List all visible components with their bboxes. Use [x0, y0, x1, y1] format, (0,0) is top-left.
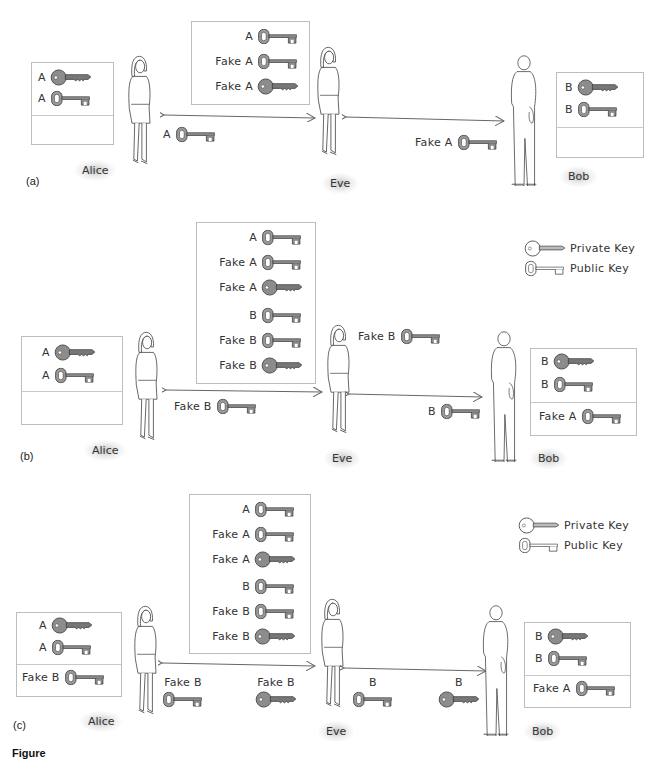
public-key-icon: [518, 537, 560, 554]
box-divider: [531, 402, 636, 403]
box-divider: [32, 115, 113, 116]
private-key-icon: [261, 279, 303, 296]
transfer-label: B: [352, 676, 394, 689]
alice-figure: [130, 320, 166, 455]
alice-keyring-box: A A Fake B: [16, 612, 122, 697]
public-key-icon: [51, 639, 93, 656]
key-owner-label: Fake A: [212, 528, 250, 541]
key-row: B: [541, 376, 595, 393]
legend-private: Private Key: [518, 515, 629, 535]
transfer-label: Fake B: [174, 400, 212, 413]
key-row: A: [249, 229, 303, 246]
eve-figure: [322, 318, 358, 443]
transfer-label: Fake B: [358, 330, 396, 343]
key-row: B: [249, 307, 303, 324]
key-owner-label: Fake A: [533, 682, 571, 695]
key-owner-label: A: [245, 30, 253, 43]
eve-keyring-box: A Fake A Fake A B Fake B Fake B: [196, 222, 316, 384]
key-row: A: [42, 367, 96, 384]
public-key-icon: [581, 408, 623, 425]
key-row: B: [242, 578, 296, 595]
key-owner-label: A: [38, 71, 46, 84]
key-owner-label: Fake B: [22, 671, 60, 684]
transfer-key: Fake B: [162, 676, 204, 708]
alice-eve-arrow: [162, 384, 327, 398]
key-row: A: [39, 639, 93, 656]
bob-keyring-box: B B Fake A: [530, 348, 637, 436]
transfer-label: B: [428, 405, 436, 418]
eve-name-label: Eve: [322, 173, 358, 194]
key-owner-label: A: [42, 369, 50, 382]
private-key-icon: [257, 78, 299, 95]
key-row: Fake B: [22, 669, 106, 686]
bob-figure: [476, 604, 516, 736]
bob-keyring-box: B B: [556, 72, 644, 158]
private-key-icon: [547, 628, 589, 645]
key-legend: Private Key Public Key: [518, 515, 629, 555]
public-key-icon: [457, 134, 499, 151]
key-owner-label: Fake A: [219, 281, 257, 294]
key-row: Fake A: [539, 408, 623, 425]
key-row: B: [535, 650, 589, 667]
public-key-icon: [261, 332, 303, 349]
key-row: B: [541, 353, 595, 370]
private-key-icon: [51, 617, 93, 634]
panel-tag: (c): [13, 719, 26, 731]
key-row: B: [565, 101, 619, 118]
public-key-icon: [175, 126, 217, 143]
transfer-label: Fake B: [162, 676, 204, 689]
public-key-icon: [575, 680, 617, 697]
public-key-icon: [261, 254, 303, 271]
public-key-icon: [254, 501, 296, 518]
key-owner-label: Fake B: [212, 605, 250, 618]
alice-eve-arrow: [158, 658, 320, 672]
key-row: Fake A: [219, 254, 303, 271]
legend-public: Public Key: [518, 535, 629, 555]
key-owner-label: B: [541, 355, 549, 368]
box-divider: [525, 675, 630, 676]
key-row: Fake B: [219, 357, 303, 374]
bob-keyring-box: B B Fake A: [524, 622, 631, 708]
private-key-icon: [255, 691, 297, 708]
key-owner-label: B: [249, 309, 257, 322]
public-key-icon: [577, 101, 619, 118]
eve-name-label: Eve: [324, 448, 360, 469]
bob-name-label: Bob: [560, 166, 597, 187]
private-key-icon: [54, 344, 96, 361]
key-owner-label: A: [249, 231, 257, 244]
legend-public: Public Key: [524, 258, 635, 278]
public-key-icon: [261, 307, 303, 324]
public-key-icon: [352, 691, 394, 708]
legend-private-label: Private Key: [564, 519, 629, 532]
key-owner-label: Fake B: [212, 630, 250, 643]
transfer-key: B: [438, 676, 480, 708]
bob-name-label: Bob: [530, 448, 567, 469]
public-key-icon: [254, 578, 296, 595]
private-key-icon: [524, 240, 566, 257]
transfer-key: B: [428, 403, 482, 420]
key-owner-label: B: [541, 378, 549, 391]
private-key-icon: [518, 517, 560, 534]
key-owner-label: Fake A: [219, 256, 257, 269]
eve-keyring-box: A Fake A Fake A: [191, 21, 310, 105]
public-key-icon: [261, 229, 303, 246]
public-key-icon: [50, 90, 92, 107]
key-owner-label: Fake B: [219, 359, 257, 372]
public-key-icon: [254, 603, 296, 620]
key-row: Fake A: [215, 78, 299, 95]
key-owner-label: A: [42, 346, 50, 359]
public-key-icon: [54, 367, 96, 384]
key-owner-label: Fake B: [219, 334, 257, 347]
eve-figure: [316, 592, 352, 717]
eve-name-label: Eve: [318, 721, 354, 742]
key-row: A: [38, 69, 92, 86]
key-row: Fake A: [212, 526, 296, 543]
transfer-key: Fake B: [174, 398, 258, 415]
key-row: A: [245, 28, 299, 45]
key-owner-label: B: [565, 103, 573, 116]
key-row: Fake B: [212, 628, 296, 645]
eve-bob-arrow: [342, 112, 510, 126]
legend-public-label: Public Key: [564, 539, 623, 552]
key-owner-label: B: [565, 81, 573, 94]
key-owner-label: A: [242, 503, 250, 516]
